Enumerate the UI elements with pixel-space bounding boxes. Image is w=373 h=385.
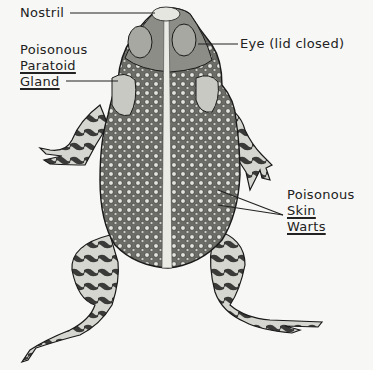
label-warts-1: Poisonous — [287, 187, 355, 203]
bottom-margin — [0, 370, 373, 385]
label-eye: Eye (lid closed) — [240, 36, 344, 52]
left-front-leg — [40, 105, 108, 165]
right-hind-leg — [211, 230, 322, 333]
label-paratoid-2: Paratoid — [20, 58, 76, 74]
toad-diagram: Nostril Eye (lid closed) Poisonous Parat… — [0, 0, 373, 385]
right-eye — [172, 24, 196, 56]
label-warts-3: Warts — [287, 219, 326, 235]
label-nostril: Nostril — [20, 5, 64, 21]
left-eye — [128, 26, 152, 58]
toad-body — [100, 7, 240, 268]
label-paratoid-3: Gland — [20, 74, 60, 90]
left-hind-leg — [22, 235, 118, 362]
label-paratoid-1: Poisonous — [20, 42, 88, 58]
label-warts-2: Skin — [287, 203, 316, 219]
right-paratoid-gland — [196, 76, 218, 113]
